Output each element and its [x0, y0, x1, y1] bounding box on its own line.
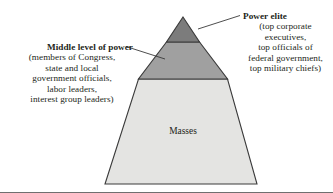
callout-power-elite-line-5: top military chiefs) [238, 63, 333, 73]
callout-middle-level-of-power-line-5: interest group leaders) [2, 94, 142, 104]
callout-middle-level-of-power-line-4: labor leaders, [2, 84, 142, 94]
callout-power-elite-line-4: federal government, [238, 53, 333, 63]
callout-middle-level-of-power-line-1: (members of Congress, [2, 52, 142, 62]
pyramid-tier-masses-label: Masses [143, 126, 223, 136]
pyramid-tier-middle-level-of-power [139, 42, 228, 79]
callout-power-elite: Power elite (top corporate executives, t… [238, 11, 333, 74]
leader-line-power-elite [198, 16, 240, 30]
callout-power-elite-line-3: top officials of [238, 42, 333, 52]
callout-middle-level-of-power-heading: Middle level of power [2, 42, 142, 52]
callout-middle-level-of-power: Middle level of power (members of Congre… [2, 42, 142, 105]
callout-middle-level-of-power-line-2: state and local [2, 63, 142, 73]
power-elite-pyramid-diagram: Power elite (top corporate executives, t… [0, 0, 333, 193]
callout-power-elite-line-1: (top corporate [238, 21, 333, 31]
callout-middle-level-of-power-line-3: government officials, [2, 73, 142, 83]
callout-power-elite-line-2: executives, [238, 32, 333, 42]
figure-bottom-rule [0, 192, 333, 193]
pyramid-tier-power-elite [167, 17, 200, 42]
callout-power-elite-heading: Power elite [238, 11, 333, 21]
